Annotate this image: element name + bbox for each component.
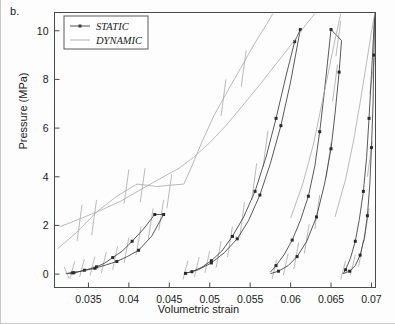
x-tick-label: 0.07 [361,293,382,305]
y-tick-label: 4 [43,171,49,183]
dynamic-tick-segment [263,131,268,168]
x-tick-label: 0.06 [280,293,301,305]
dynamic-tick-segment [304,224,309,253]
data-point-marker [344,268,347,271]
data-point-marker [318,130,321,133]
chart-legend: STATICDYNAMIC [64,16,148,49]
series-static-loop-3-load [270,30,341,274]
dynamic-tick-segment [241,50,246,87]
x-tick-label: 0.04 [119,293,140,305]
data-point-marker [277,270,280,273]
series-static-loop-1-load [66,214,164,273]
data-series-layer [58,14,376,280]
data-point-marker [315,215,318,218]
data-point-marker [279,124,282,127]
data-point-marker [236,237,239,240]
data-point-marker [296,255,299,258]
data-point-marker [368,117,371,120]
data-point-marker [348,270,351,273]
series-dynamic-tick-group-low-left [64,267,69,279]
data-point-marker [291,239,294,242]
data-point-marker [359,254,362,257]
x-tick-label: 0.055 [237,293,263,305]
chart-plot-area: 0.0350.040.0450.050.0550.060.0650.070246… [1,0,395,324]
x-tick-label: 0.045 [156,293,182,305]
data-point-marker [153,213,156,216]
data-point-marker [131,240,134,243]
dynamic-tick-segment [350,255,355,276]
x-tick-label: 0.05 [200,293,221,305]
data-point-marker [275,264,278,267]
plot-frame [55,13,376,288]
data-point-marker [115,260,118,263]
data-point-marker [362,190,365,193]
data-point-marker [354,240,357,243]
data-point-marker [111,256,114,259]
x-tick-label: 0.035 [75,293,101,305]
dynamic-tick-segment [77,205,82,242]
y-tick-label: 8 [43,73,49,85]
data-point-marker [275,117,278,120]
dynamic-tick-segment [194,257,199,277]
data-point-marker [231,235,234,238]
data-point-marker [72,271,75,274]
dynamic-tick-segment [92,200,97,235]
series-static-loop-2-unload [185,30,300,274]
data-point-marker [338,71,341,74]
x-tick-label: 0.065 [318,293,344,305]
y-tick-label: 10 [37,25,49,37]
data-point-marker [210,261,213,264]
dynamic-tick-segment [80,259,85,277]
dynamic-tick-segment [283,253,288,275]
series-static-loop-4-unload [343,14,375,274]
figure-panel: b. Pressure (MPa) Volumetric strain 0.03… [0,0,395,324]
legend-label-dynamic: DYNAMIC [95,35,143,46]
dynamic-tick-segment [70,261,75,278]
legend-static-marker [79,25,82,28]
dynamic-tick-segment [124,238,129,264]
data-point-marker [258,194,261,197]
dynamic-tick-segment [90,257,95,276]
series-dynamic-branch-right-1 [291,14,341,218]
y-tick-label: 0 [43,268,49,280]
data-point-marker [254,190,257,193]
data-point-marker [93,267,96,270]
y-tick-label: 2 [43,219,49,231]
dynamic-tick-segment [183,261,188,280]
data-point-marker [330,147,333,150]
series-static-loop-4-load [343,14,375,274]
data-point-marker [366,214,369,217]
data-point-marker [184,272,187,275]
series-static-loop-3-unload [270,30,331,273]
series-static-loop-1-unload [66,214,164,273]
data-point-marker [370,146,373,149]
data-point-marker [137,249,140,252]
data-point-marker [307,195,310,198]
dynamic-tick-segment [167,174,172,208]
y-tick-label: 6 [43,122,49,134]
legend-label-static: STATIC [96,21,130,32]
dynamic-tick-segment [252,163,257,200]
